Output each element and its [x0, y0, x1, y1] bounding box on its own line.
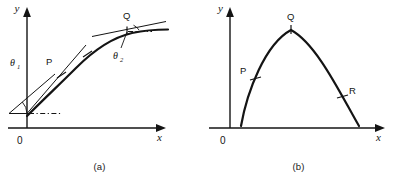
svg-text:θ: θ: [10, 57, 15, 68]
figure-panel-b: y x 0 P Q R (b): [199, 0, 398, 177]
point-label-p-b: P: [240, 65, 246, 76]
panel-b-drawing: y x 0 P Q R: [199, 0, 398, 177]
theta-1-label-a: θ 1: [10, 57, 20, 70]
figure-sheet: y x 0 P: [0, 0, 398, 177]
point-label-q-b: Q: [287, 11, 294, 22]
svg-text:1: 1: [17, 63, 20, 70]
svg-text:2: 2: [120, 56, 124, 63]
point-label-p-a: P: [46, 56, 52, 67]
caption-b: (b): [199, 161, 398, 172]
y-axis-b: [226, 7, 234, 128]
point-label-q-a: Q: [123, 10, 130, 21]
figure-panel-a: y x 0 P: [0, 0, 199, 177]
x-axis-label-b: x: [375, 131, 381, 143]
theta-2-label-a: θ 2: [113, 50, 124, 63]
point-label-r-b: R: [349, 85, 356, 96]
tangent-at-p-a: [27, 45, 86, 114]
caption-a: (a): [0, 161, 199, 172]
y-axis-label-b: y: [217, 2, 223, 14]
origin-label-b: 0: [220, 135, 226, 146]
origin-label-a: 0: [17, 135, 23, 146]
svg-text:θ: θ: [113, 50, 118, 61]
y-axis-label-a: y: [14, 2, 20, 14]
panel-a-drawing: y x 0 P: [0, 0, 199, 177]
curve-a: [27, 30, 168, 117]
x-axis-a: [8, 124, 166, 132]
x-axis-label-a: x: [156, 131, 162, 143]
